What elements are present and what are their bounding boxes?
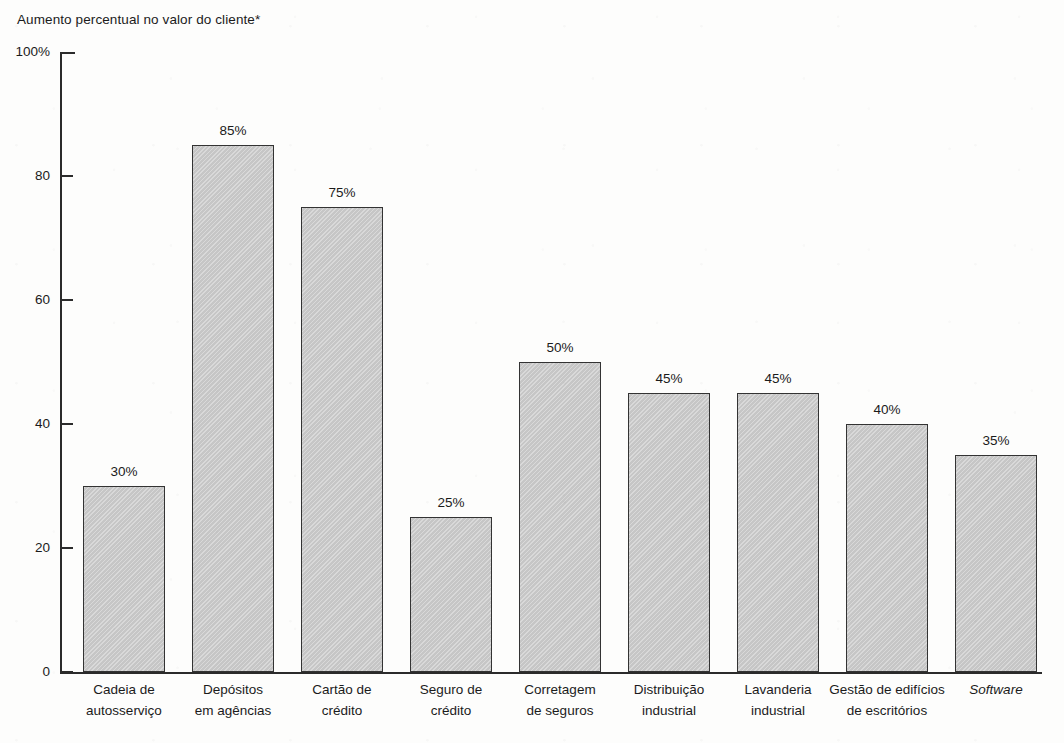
x-axis-category-labels: Cadeia deautosserviçoDepósitosem agência… <box>60 680 1042 742</box>
bar-value-label: 30% <box>83 465 165 479</box>
bar-value-label: 25% <box>410 496 492 510</box>
y-tick-label-80: 80 <box>35 169 50 183</box>
x-category-label: Software <box>930 680 1062 701</box>
bar-slot: 75% <box>301 173 383 672</box>
bar-slot: 25% <box>410 483 492 672</box>
bar-slot: 40% <box>846 390 928 672</box>
y-tick-label-0: 0 <box>42 665 50 679</box>
bar-slot: 45% <box>628 359 710 672</box>
bar-value-label: 85% <box>192 124 274 138</box>
bar-slot: 45% <box>737 359 819 672</box>
bar-value-label: 75% <box>301 186 383 200</box>
x-category-label-line2: de escritórios <box>821 701 953 722</box>
bar <box>628 393 710 672</box>
y-tick-label-40: 40 <box>35 417 50 431</box>
bar <box>737 393 819 672</box>
bar <box>410 517 492 672</box>
bar <box>192 145 274 672</box>
bar <box>955 455 1037 672</box>
bar <box>301 207 383 672</box>
bar-slot: 85% <box>192 111 274 672</box>
y-tick-label-20: 20 <box>35 541 50 555</box>
bar-value-label: 45% <box>628 372 710 386</box>
bar-value-label: 50% <box>519 341 601 355</box>
bar-chart: Aumento percentual no valor do cliente* … <box>0 0 1064 743</box>
bar-slot: 50% <box>519 328 601 672</box>
bar-value-label: 35% <box>955 434 1037 448</box>
y-tick-label-100: 100% <box>15 45 50 59</box>
bar-value-label: 45% <box>737 372 819 386</box>
bar-series: 30%85%75%25%50%45%45%40%35% <box>60 52 1042 674</box>
plot-area: 30%85%75%25%50%45%45%40%35% <box>60 52 1042 672</box>
bar <box>83 486 165 672</box>
bar-value-label: 40% <box>846 403 928 417</box>
bar <box>519 362 601 672</box>
bar <box>846 424 928 672</box>
bar-slot: 35% <box>955 421 1037 672</box>
y-tick-label-60: 60 <box>35 293 50 307</box>
bar-slot: 30% <box>83 452 165 672</box>
x-category-label-line1: Software <box>930 680 1062 701</box>
y-axis-labels: 100%806040200 <box>0 0 60 743</box>
